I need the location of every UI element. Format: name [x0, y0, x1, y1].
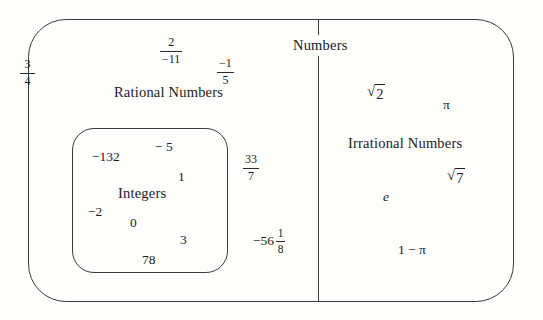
fraction-denominator: 7: [246, 170, 256, 183]
rational-numbers-label: Rational Numbers: [114, 85, 223, 100]
fraction-numerator: 1: [278, 227, 284, 240]
one-minus-pi-expression: 1 − π: [398, 243, 426, 257]
fraction-denominator: 5: [220, 74, 230, 87]
fraction-numerator: 3: [23, 58, 33, 71]
mixed-number-fraction-part: 1 8: [276, 227, 285, 255]
integers-label: Integers: [118, 186, 166, 201]
radical-sign: √: [367, 84, 375, 99]
pi-constant: π: [443, 98, 450, 112]
mixed-number-whole-part: −56: [253, 233, 274, 249]
integer-value: 3: [180, 233, 187, 247]
fraction-thirty-three-sevenths: 33 7: [243, 153, 259, 184]
radicand: 7: [455, 168, 465, 185]
diagram-title: Numbers: [288, 38, 353, 53]
fraction-denominator: 8: [278, 243, 284, 256]
fraction-bar: [276, 241, 285, 242]
set-divider-lower-segment: [318, 56, 319, 302]
euler-constant: e: [383, 190, 389, 204]
integer-value: − 5: [155, 140, 173, 154]
integer-value: 0: [130, 216, 137, 230]
integer-value: −132: [92, 150, 120, 164]
set-divider-upper-segment: [318, 19, 319, 35]
fraction-numerator: 33: [243, 153, 259, 166]
fraction-two-over-negative-eleven: 2 −11: [160, 36, 182, 67]
mixed-number-negative-fifty-six-and-one-eighth: −56 1 8: [253, 227, 285, 255]
integer-value: 78: [142, 253, 156, 267]
number-sets-venn-diagram: Numbers Rational Numbers Integers Irrati…: [0, 0, 543, 320]
fraction-three-fourths: 3 4: [20, 58, 35, 89]
fraction-negative-one-fifth: −1 5: [217, 57, 234, 88]
irrational-numbers-label: Irrational Numbers: [348, 136, 462, 151]
square-root-of-seven: √ 7: [447, 168, 465, 185]
fraction-denominator: −11: [160, 53, 182, 66]
integer-value: 1: [178, 170, 185, 184]
radicand: 2: [375, 84, 385, 101]
integer-value: −2: [88, 205, 102, 219]
radical-sign: √: [447, 168, 455, 183]
fraction-numerator: 2: [166, 36, 176, 49]
square-root-of-two: √ 2: [367, 84, 385, 101]
fraction-denominator: 4: [23, 75, 33, 88]
fraction-numerator: −1: [217, 57, 234, 70]
